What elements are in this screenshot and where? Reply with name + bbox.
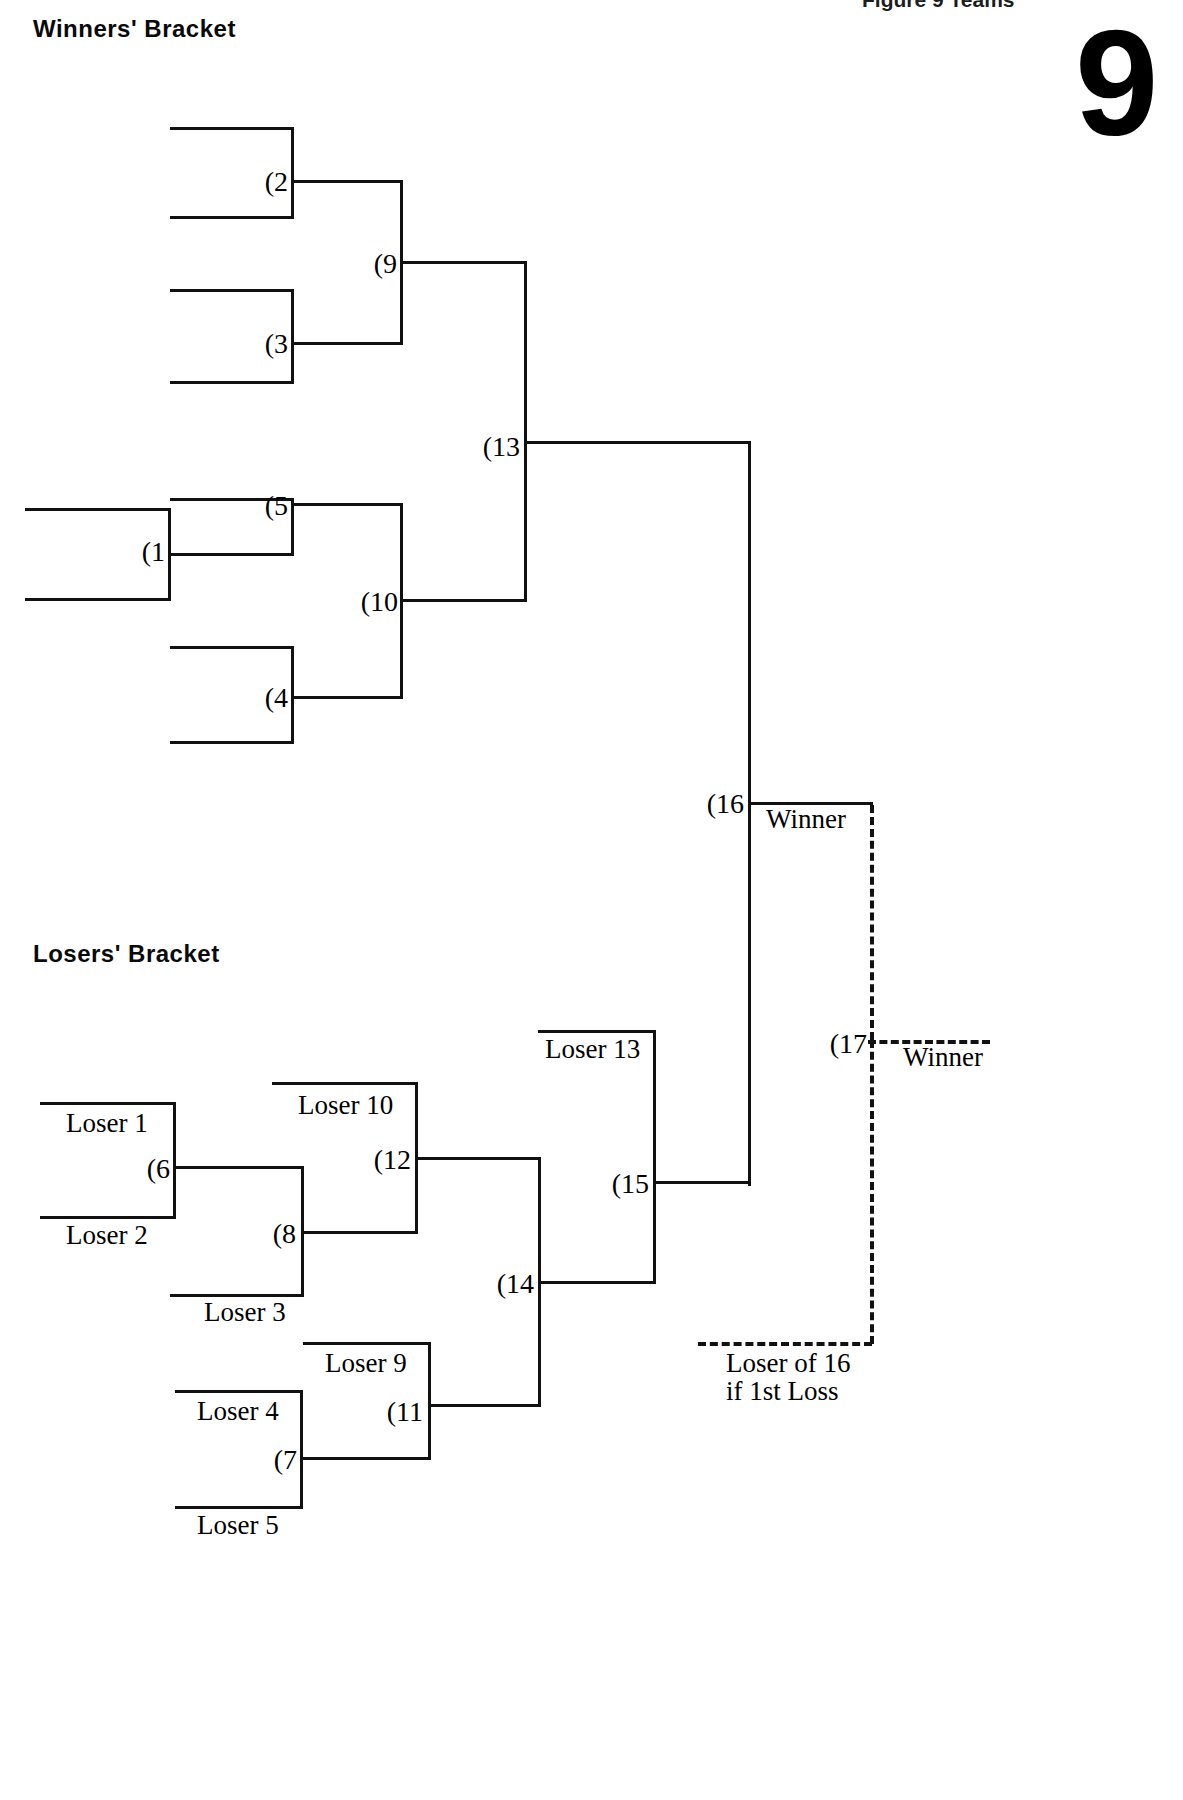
lb-advance-15-to-16: [653, 1181, 751, 1184]
running-head: Figure 9 Teams: [862, 0, 1015, 12]
lb-feed-loser4-label: Loser 4: [197, 1398, 279, 1425]
wb-feed-line-2b: [170, 216, 294, 219]
lb-feed-loser10-label: Loser 10: [298, 1092, 393, 1119]
wb-bracket-5: [291, 498, 294, 556]
page-number: 9: [1075, 20, 1158, 148]
wb-advance-1-to-5: [168, 553, 294, 556]
wb-advance-3-to-9: [291, 342, 403, 345]
lb-feed-loser13-label: Loser 13: [545, 1036, 640, 1063]
lb-advance-7-to-11: [300, 1457, 428, 1460]
lb-bracket-15: [653, 1030, 656, 1284]
lb-feed-loser3-label: Loser 3: [204, 1299, 286, 1326]
wb-game-9-label: (9: [364, 250, 397, 278]
lb-game-8-label: (8: [266, 1220, 296, 1248]
wb-winner-16-label: Winner: [766, 806, 846, 833]
lb-feed-line-loser1: [40, 1102, 176, 1105]
lb-bracket-6: [173, 1102, 176, 1219]
wb-bracket-3: [291, 289, 294, 384]
lb-feed-line-loser9: [303, 1342, 431, 1345]
winners-bracket-heading: Winners' Bracket: [33, 15, 236, 43]
wb-advance-9-to-13: [400, 261, 527, 264]
wb-bracket-16: [748, 441, 751, 1186]
lb-game-12-label: (12: [371, 1146, 411, 1174]
lb-advance-11-to-14: [428, 1404, 541, 1407]
wb-feed-line-3a: [170, 289, 294, 292]
wb-game-1-label: (1: [136, 538, 165, 566]
lb-loser16-line1: Loser of 16: [726, 1350, 850, 1377]
wb-advance-5-to-10: [291, 503, 403, 506]
wb-feed-line-2a: [170, 127, 294, 130]
lb-game-11-label: (11: [383, 1398, 423, 1426]
wb-bracket-13: [524, 261, 527, 602]
lb-game-15-label: (15: [609, 1170, 649, 1198]
lb-feed-line-loser13: [538, 1030, 656, 1033]
wb-game-4-label: (4: [255, 684, 288, 712]
wb-game-3-label: (3: [255, 330, 288, 358]
wb-game-5-label: (5: [255, 492, 288, 520]
wb-advance-10-to-13: [400, 599, 527, 602]
lb-feed-line-loser5: [175, 1506, 303, 1509]
lb-final-winner-label: Winner: [903, 1044, 983, 1071]
lb-bracket-11: [428, 1342, 431, 1460]
wb-feed-line-1b: [25, 598, 171, 601]
lb-advance-14-to-15: [538, 1281, 656, 1284]
lb-game-7-label: (7: [267, 1446, 297, 1474]
wb-feed-line-3b: [170, 381, 294, 384]
lb-feed-loser2-label: Loser 2: [66, 1222, 148, 1249]
wb-feed-line-4a: [170, 646, 294, 649]
lb-bracket-7: [300, 1390, 303, 1509]
wb-game-13-label: (13: [480, 433, 520, 461]
lb-feed-line-loser4: [175, 1390, 303, 1393]
lb-game-14-label: (14: [494, 1270, 534, 1298]
lb-feed-loser9-label: Loser 9: [325, 1350, 407, 1377]
wb-feed-line-1a: [25, 508, 171, 511]
lb-feed-line-loser2: [40, 1216, 176, 1219]
wb-bracket-4: [291, 646, 294, 743]
wb-game-10-label: (10: [358, 588, 398, 616]
lb-advance-12-to-14: [415, 1157, 540, 1160]
wb-bracket-2: [291, 127, 294, 219]
wb-advance-2-to-9: [291, 180, 403, 183]
wb-advance-13-to-16: [524, 441, 751, 444]
lb-game-6-label: (6: [140, 1155, 170, 1183]
wb-feed-line-4b: [170, 741, 294, 744]
wb-winner-16-to-17-dashed: [870, 805, 874, 1040]
lb-game-17-label: (17: [827, 1030, 867, 1058]
lb-feed-line-loser10: [272, 1082, 418, 1085]
wb-advance-4-to-10: [291, 696, 403, 699]
lb-feed-loser5-label: Loser 5: [197, 1512, 279, 1539]
wb-game-2-label: (2: [255, 168, 288, 196]
lb-game-17-vertical-dashed: [870, 1040, 874, 1344]
lb-advance-8-to-12: [301, 1231, 415, 1234]
lb-advance-6-to-8: [173, 1166, 301, 1169]
lb-loser16-dashed-line: [698, 1342, 872, 1346]
losers-bracket-heading: Losers' Bracket: [33, 940, 220, 968]
lb-feed-loser1-label: Loser 1: [66, 1110, 148, 1137]
wb-game-16-label: (16: [704, 790, 744, 818]
lb-loser16-line2: if 1st Loss: [726, 1378, 839, 1405]
